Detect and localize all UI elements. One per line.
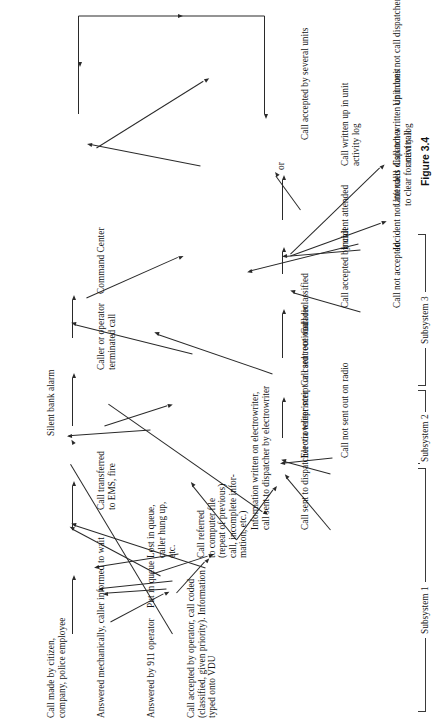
edge-several-units: [90, 144, 200, 166]
edge-return-right: [79, 16, 265, 17]
node-incident-attended: Incident attended: [340, 185, 351, 250]
arrowhead: [380, 163, 386, 169]
arrowhead: [167, 403, 173, 408]
node-call-not-accepted: Call not accepted: [392, 243, 403, 308]
arrowhead: [282, 397, 286, 402]
node-answered-mechanically: Answered mechanically, caller informed t…: [96, 537, 107, 718]
edge-radio-to-unit: [282, 314, 283, 358]
arrowhead: [72, 373, 76, 378]
edge-radio-up: [157, 334, 273, 375]
arrowhead: [280, 461, 285, 466]
arrowhead: [67, 434, 72, 438]
figure-page: Call made by citizen, company, police em…: [0, 0, 436, 726]
edge-terminated: [69, 430, 151, 437]
arrowhead: [87, 142, 93, 147]
node-accepted-several-units: Call accepted by several units: [300, 27, 311, 140]
figure-caption: Figure 3.4: [420, 137, 431, 186]
edge-queue-loop-b: [101, 581, 173, 589]
arrowhead: [164, 590, 170, 596]
node-call-made: Call made by citizen, company, police em…: [46, 617, 67, 718]
flowchart-canvas: Call made by citizen, company, police em…: [0, 0, 436, 726]
node-call-accepted-operator: Call accepted by operator, call coded (c…: [186, 570, 218, 718]
arrowhead: [247, 269, 253, 274]
edge-queue-loop-a: [105, 589, 167, 594]
arrowhead: [189, 481, 195, 487]
edge-unit-calls-clear: [290, 168, 380, 255]
arrowhead: [282, 254, 287, 258]
arrowhead: [290, 289, 296, 294]
edge-spine-1: [72, 580, 73, 634]
arrowhead: [264, 114, 268, 119]
arrowhead: [72, 295, 76, 300]
node-command-center: Command Center: [96, 227, 107, 294]
node-answered-911: Answered by 911 operator: [146, 618, 157, 718]
bracket-label-subsystem-2: Subsystem 2: [420, 412, 430, 464]
node-info-electrowriter: Information written on electrowriter, ca…: [250, 386, 271, 530]
arrowhead: [204, 77, 210, 83]
arrowhead: [71, 321, 77, 326]
node-put-in-queue: Put in queue: [146, 561, 157, 608]
edge-or-written: [275, 176, 300, 211]
edge-script-to-radio: [282, 402, 283, 438]
arrowhead: [381, 219, 387, 224]
arrowhead: [282, 247, 286, 252]
arrowhead: [72, 481, 76, 486]
edge-spine-4: [72, 300, 73, 338]
arrowhead: [78, 62, 82, 67]
arrowhead: [283, 473, 289, 479]
arrowhead: [282, 175, 286, 180]
arrowhead: [70, 439, 76, 445]
node-call-referred: Call referred to computer file (repeat o…: [196, 474, 249, 558]
node-or-connector: or: [276, 162, 287, 170]
arrowhead: [178, 254, 184, 260]
node-unit-not-call-clear: Unit does not call dispatcher to clear: [392, 0, 403, 106]
node-caller-terminated: Caller or operator terminated call: [96, 303, 117, 370]
edge-several-to-written: [96, 81, 203, 149]
node-lost-in-queue: Lost in queue, caller hung up, etc.: [146, 502, 178, 558]
arrowhead: [72, 575, 76, 580]
edge-spine-3: [72, 378, 73, 426]
arrowhead: [282, 309, 286, 314]
node-call-transferred: Call transferred to EMS, fire: [96, 451, 117, 510]
arrowhead: [272, 485, 278, 491]
node-call-reclassified: Call reclassified: [300, 273, 311, 334]
edge-not-clear: [264, 16, 265, 114]
node-call-not-sent-radio: Call not sent out on radio: [340, 362, 351, 458]
node-call-written-up: Call written up in unit activity log: [340, 83, 361, 166]
arrowhead: [178, 14, 183, 18]
node-silent-bank-alarm: Silent bank alarm: [46, 370, 57, 436]
bracket-label-subsystem-3: Subsystem 3: [420, 292, 430, 348]
bracket-label-subsystem-1: Subsystem 1: [420, 582, 430, 638]
